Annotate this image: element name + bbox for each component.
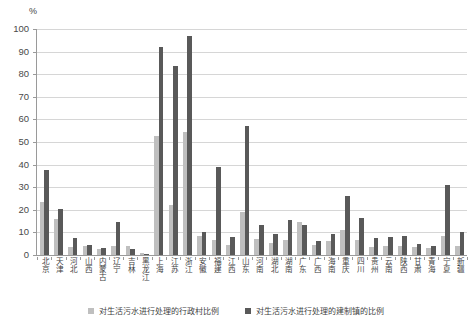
x-tick-mark (166, 257, 167, 260)
bar-series2 (101, 248, 106, 255)
bar-group (166, 29, 180, 255)
x-axis-label: 辽宁 (112, 257, 120, 273)
x-tick-mark (66, 257, 67, 260)
x-axis-label: 北京 (40, 257, 48, 273)
bar-series2 (173, 66, 178, 255)
bar-group (424, 29, 438, 255)
x-axis-label-cell: 江西 (223, 257, 237, 303)
y-tick-label-70: 70 (18, 92, 29, 102)
y-tick-label-100: 100 (13, 24, 29, 34)
x-axis-label-cell: 广西 (309, 257, 323, 303)
x-axis-label-cell: 重庆 (338, 257, 352, 303)
x-tick-mark (238, 257, 239, 260)
bar-series2 (130, 249, 135, 255)
x-tick-mark (209, 257, 210, 260)
x-axis-label-cell: 甘肃 (410, 257, 424, 303)
bar-group (37, 29, 51, 255)
bar-series2 (460, 232, 465, 255)
x-axis-label-cell: 安徽 (195, 257, 209, 303)
y-axis-tick-labels: 1009080706050403020100 (0, 0, 34, 324)
x-axis-label: 天津 (55, 257, 63, 273)
bar-group (80, 29, 94, 255)
bar-group (252, 29, 266, 255)
y-tick-label-60: 60 (18, 114, 29, 124)
bar-series2 (87, 245, 92, 255)
x-axis-label: 黑龙江 (141, 257, 149, 281)
bar-group (309, 29, 323, 255)
x-axis-label-cell: 山东 (238, 257, 252, 303)
x-tick-mark (324, 257, 325, 260)
y-tick-label-80: 80 (18, 69, 29, 79)
x-tick-mark (309, 257, 310, 260)
x-axis-label-cell: 内蒙古 (94, 257, 108, 303)
x-tick-mark (338, 257, 339, 260)
bar-series2 (417, 244, 422, 255)
legend-item-series2: 对生活污水进行处理的建制镇的比例 (245, 305, 384, 316)
x-axis-label-cell: 福建 (209, 257, 223, 303)
x-axis-label-cell: 湖北 (266, 257, 280, 303)
bar-series2 (245, 126, 250, 255)
plot-area (37, 29, 467, 255)
legend-item-series1: 对生活污水进行处理的行政村比例 (88, 305, 219, 316)
legend-swatch-series2 (245, 308, 251, 314)
x-axis-label: 甘肃 (413, 257, 421, 273)
bar-group (94, 29, 108, 255)
x-tick-mark (281, 257, 282, 260)
x-tick-mark (410, 257, 411, 260)
bar-group (367, 29, 381, 255)
x-axis-label: 江西 (227, 257, 235, 273)
x-tick-mark (80, 257, 81, 260)
bar-series2 (359, 218, 364, 255)
bar-series2 (331, 234, 336, 255)
x-axis-label: 广东 (298, 257, 306, 273)
y-tick-label-40: 40 (18, 160, 29, 170)
x-tick-mark (395, 257, 396, 260)
x-tick-mark (438, 257, 439, 260)
bar-series2 (73, 238, 78, 255)
x-tick-mark (51, 257, 52, 260)
x-tick-mark (367, 257, 368, 260)
bar-series2 (216, 167, 221, 255)
x-axis-label: 广西 (313, 257, 321, 273)
bar-series2 (202, 232, 207, 255)
x-axis-label: 贵州 (370, 257, 378, 273)
x-axis-label: 福建 (212, 257, 220, 273)
x-tick-mark (424, 257, 425, 260)
x-axis-label-cell: 山西 (80, 257, 94, 303)
x-axis-label-cell: 河南 (252, 257, 266, 303)
bar-group (438, 29, 452, 255)
chart-legend: 对生活污水进行处理的行政村比例 对生活污水进行处理的建制镇的比例 (0, 305, 472, 316)
y-tick-label-10: 10 (18, 227, 29, 237)
x-axis-label-cell: 辽宁 (109, 257, 123, 303)
x-tick-mark (223, 257, 224, 260)
x-tick-mark (352, 257, 353, 260)
x-axis-label: 海南 (327, 257, 335, 273)
x-axis-label: 湖北 (270, 257, 278, 273)
x-axis-label: 重庆 (341, 257, 349, 273)
x-axis-label: 江苏 (169, 257, 177, 273)
x-axis-label: 陕西 (398, 257, 406, 273)
x-axis-label-cell: 广东 (295, 257, 309, 303)
bar-group (223, 29, 237, 255)
y-tick-label-0: 0 (24, 250, 29, 260)
bar-group (137, 29, 151, 255)
legend-label-series2: 对生活污水进行处理的建制镇的比例 (256, 305, 384, 316)
bar-group (395, 29, 409, 255)
legend-swatch-series1 (88, 308, 94, 314)
bar-series2 (144, 254, 149, 255)
x-axis-label: 青海 (427, 257, 435, 273)
x-axis-label: 四川 (355, 257, 363, 273)
x-axis-label-cell: 贵州 (367, 257, 381, 303)
bar-series2 (402, 236, 407, 255)
x-tick-mark (152, 257, 153, 260)
x-tick-mark (453, 257, 454, 260)
x-tick-mark (252, 257, 253, 260)
x-axis-label: 山西 (83, 257, 91, 273)
x-axis-label: 宁夏 (441, 257, 449, 273)
gridline-0 (37, 255, 467, 256)
x-axis-label: 浙江 (184, 257, 192, 273)
x-axis-label: 山东 (241, 257, 249, 273)
x-tick-mark (195, 257, 196, 260)
x-axis-label: 新疆 (456, 257, 464, 273)
x-tick-mark (295, 257, 296, 260)
